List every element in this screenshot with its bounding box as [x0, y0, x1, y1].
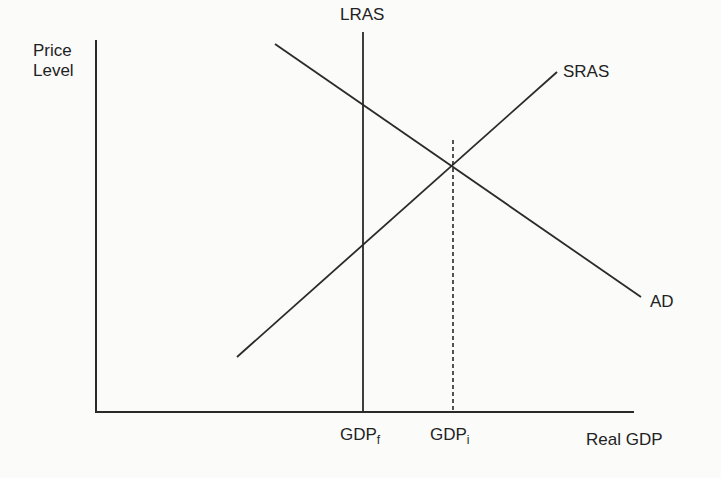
- y-axis-label-line1: Price: [33, 41, 74, 61]
- sras-label: SRAS: [563, 62, 609, 82]
- gdp-f-subscript: f: [377, 433, 380, 447]
- y-axis-label: Price Level: [33, 41, 74, 81]
- gdp-i-tick-label: GDPi: [430, 425, 470, 450]
- ad-as-diagram: [0, 0, 721, 478]
- gdp-i-subscript: i: [467, 433, 470, 447]
- gdp-f-main: GDP: [340, 425, 377, 444]
- gdp-f-tick-label: GDPf: [340, 425, 380, 450]
- y-axis-label-line2: Level: [33, 61, 74, 81]
- lras-label: LRAS: [340, 5, 384, 25]
- x-axis-label: Real GDP: [586, 430, 663, 450]
- gdp-i-main: GDP: [430, 425, 467, 444]
- ad-label: AD: [650, 292, 674, 312]
- sras-curve: [237, 72, 557, 357]
